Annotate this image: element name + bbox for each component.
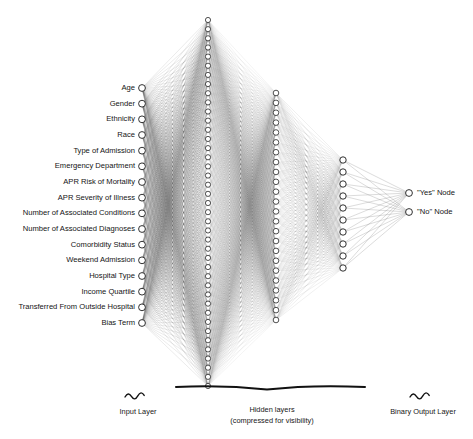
input-node-8 bbox=[139, 194, 146, 201]
hidden1-node-13 bbox=[205, 127, 210, 132]
hidden3-node-10 bbox=[340, 265, 346, 271]
input-layer-caption: Input Layer bbox=[120, 407, 158, 416]
hidden1-node-10 bbox=[205, 100, 210, 105]
input-node-13 bbox=[139, 273, 146, 280]
hidden1-node-4 bbox=[205, 45, 210, 50]
input-node-11 bbox=[139, 241, 146, 248]
hidden1-node-18 bbox=[205, 173, 210, 178]
hidden1-node-35 bbox=[205, 329, 210, 334]
hidden2-node-21 bbox=[273, 288, 279, 294]
hidden2-node-17 bbox=[273, 248, 279, 254]
hidden2-node-22 bbox=[273, 297, 279, 303]
input-node-16 bbox=[139, 320, 146, 327]
hidden3-node-7 bbox=[340, 229, 346, 235]
hidden1-node-21 bbox=[205, 200, 210, 205]
input-node-12 bbox=[139, 257, 146, 264]
input-label-12: Weekend Admission bbox=[66, 255, 135, 264]
input-label-6: Emergency Department bbox=[55, 161, 136, 170]
hidden1-node-23 bbox=[205, 219, 210, 224]
hidden2-node-19 bbox=[273, 268, 279, 274]
hidden1-node-20 bbox=[205, 191, 210, 196]
hidden3-node-1 bbox=[340, 157, 346, 163]
hidden-layer-1-nodes bbox=[205, 17, 210, 388]
hidden2-node-5 bbox=[273, 130, 279, 136]
hidden2-node-9 bbox=[273, 169, 279, 175]
hidden3-node-2 bbox=[340, 169, 346, 175]
input-label-9: Number of Associated Conditions bbox=[23, 208, 135, 217]
hidden1-node-7 bbox=[205, 72, 210, 77]
hidden2-node-14 bbox=[273, 219, 279, 225]
hidden1-node-26 bbox=[205, 246, 210, 251]
hidden-layers-caption-line1: Hidden layers bbox=[249, 405, 294, 414]
input-node-9 bbox=[139, 210, 146, 217]
hidden1-node-5 bbox=[205, 54, 210, 59]
hidden1-node-24 bbox=[205, 228, 210, 233]
hidden1-node-25 bbox=[205, 237, 210, 242]
input-node-6 bbox=[139, 163, 146, 170]
hidden2-node-7 bbox=[273, 149, 279, 155]
hidden1-node-3 bbox=[205, 36, 210, 41]
hidden1-node-8 bbox=[205, 81, 210, 86]
input-label-10: Number of Associated Diagnoses bbox=[23, 224, 135, 233]
input-label-16: Bias Term bbox=[101, 318, 135, 327]
input-node-4 bbox=[139, 132, 146, 139]
hidden1-node-34 bbox=[205, 319, 210, 324]
input-node-2 bbox=[139, 100, 146, 107]
input-node-5 bbox=[139, 147, 146, 154]
hidden1-node-9 bbox=[205, 91, 210, 96]
input-label-1: Age bbox=[121, 83, 135, 92]
hidden2-node-23 bbox=[273, 307, 279, 313]
hidden2-node-4 bbox=[273, 120, 279, 126]
input-label-13: Hospital Type bbox=[89, 271, 135, 280]
hidden2-node-1 bbox=[273, 90, 279, 96]
input-label-8: APR Severity of Illness bbox=[58, 193, 135, 202]
output-node-2 bbox=[406, 209, 413, 216]
hidden1-node-40 bbox=[205, 374, 210, 379]
hidden1-node-14 bbox=[205, 136, 210, 141]
input-label-15: Transferred From Outside Hospital bbox=[18, 302, 135, 311]
input-node-7 bbox=[139, 179, 146, 186]
hidden1-node-1 bbox=[205, 17, 210, 22]
input-node-14 bbox=[139, 288, 146, 295]
hidden1-node-39 bbox=[205, 365, 210, 370]
hidden2-node-2 bbox=[273, 100, 279, 106]
hidden2-node-18 bbox=[273, 258, 279, 264]
hidden1-node-37 bbox=[205, 347, 210, 352]
hidden-layers-caption-line2: (compressed for visibility) bbox=[230, 416, 313, 425]
hidden1-node-12 bbox=[205, 118, 210, 123]
hidden2-node-20 bbox=[273, 278, 279, 284]
input-label-14: Income Quartile bbox=[81, 287, 135, 296]
hidden1-node-17 bbox=[205, 164, 210, 169]
hidden3-node-6 bbox=[340, 217, 346, 223]
hidden3-node-8 bbox=[340, 241, 346, 247]
hidden1-node-29 bbox=[205, 274, 210, 279]
input-node-3 bbox=[139, 116, 146, 123]
input-label-2: Gender bbox=[110, 99, 136, 108]
hidden1-node-33 bbox=[205, 310, 210, 315]
hidden2-node-11 bbox=[273, 189, 279, 195]
hidden1-node-11 bbox=[205, 109, 210, 114]
hidden1-node-31 bbox=[205, 292, 210, 297]
hidden1-node-19 bbox=[205, 182, 210, 187]
hidden1-node-16 bbox=[205, 155, 210, 160]
hidden2-node-12 bbox=[273, 199, 279, 205]
input-label-11: Comorbidity Status bbox=[71, 240, 135, 249]
hidden2-node-8 bbox=[273, 159, 279, 165]
hidden2-node-13 bbox=[273, 209, 279, 215]
input-node-10 bbox=[139, 226, 146, 233]
hidden1-node-28 bbox=[205, 264, 210, 269]
hidden3-node-9 bbox=[340, 253, 346, 259]
hidden1-node-2 bbox=[205, 27, 210, 32]
hidden1-node-15 bbox=[205, 146, 210, 151]
input-node-1 bbox=[139, 85, 146, 92]
input-label-3: Ethnicity bbox=[106, 114, 135, 123]
hidden1-node-32 bbox=[205, 301, 210, 306]
hidden2-node-16 bbox=[273, 238, 279, 244]
neural-network-diagram: AgeGenderEthnicityRaceType of AdmissionE… bbox=[0, 0, 473, 439]
hidden3-node-3 bbox=[340, 181, 346, 187]
input-label-5: Type of Admission bbox=[73, 146, 135, 155]
hidden3-node-5 bbox=[340, 205, 346, 211]
output-label-2: "No" Node bbox=[417, 207, 452, 216]
hidden2-node-24 bbox=[273, 317, 279, 323]
input-label-4: Race bbox=[117, 130, 135, 139]
